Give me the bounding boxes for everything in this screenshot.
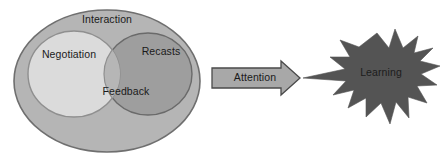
negotiation-label: Negotiation (42, 48, 96, 60)
recasts-label: Recasts (142, 45, 181, 57)
learning-starburst: Learning (303, 29, 440, 124)
attention-arrow: Attention (212, 61, 300, 95)
feedback-label: Feedback (103, 85, 151, 97)
attention-label: Attention (234, 71, 276, 83)
interaction-learning-diagram: Interaction Negotiation Recasts Feedback… (0, 0, 442, 163)
learning-label: Learning (360, 66, 402, 78)
interaction-label: Interaction (82, 13, 132, 25)
